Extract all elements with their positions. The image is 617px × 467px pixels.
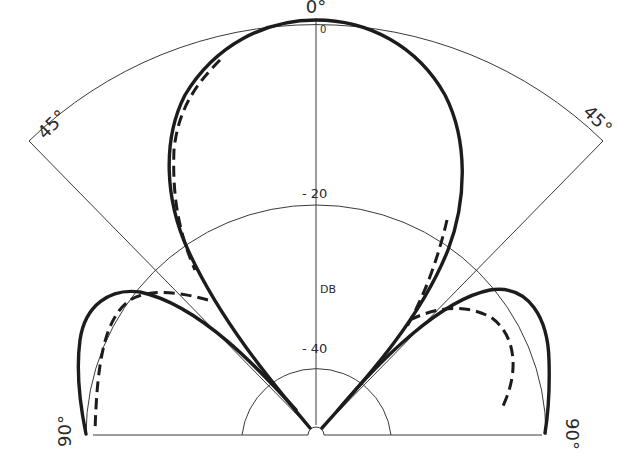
label-minus-40-db: - 40 bbox=[302, 341, 327, 356]
label-left-45-deg: 45° bbox=[33, 105, 70, 142]
label-0-deg: 0° bbox=[306, 0, 326, 17]
polar-grid bbox=[29, 20, 603, 435]
right-sidelobe-solid bbox=[338, 289, 549, 433]
label-right-45-deg: 45° bbox=[579, 101, 616, 138]
label-db-unit: DB bbox=[320, 283, 336, 296]
left-sidelobe-solid bbox=[78, 291, 296, 434]
label-left-90-deg: 90° bbox=[54, 415, 75, 447]
label-right-90-deg: 90° bbox=[562, 418, 583, 450]
label-minus-20-db: - 20 bbox=[302, 186, 327, 201]
polar-diagram: 0° 0 - 20 DB - 40 45° 45° 90° 90° bbox=[0, 0, 617, 467]
label-0-db: 0 bbox=[320, 24, 326, 35]
